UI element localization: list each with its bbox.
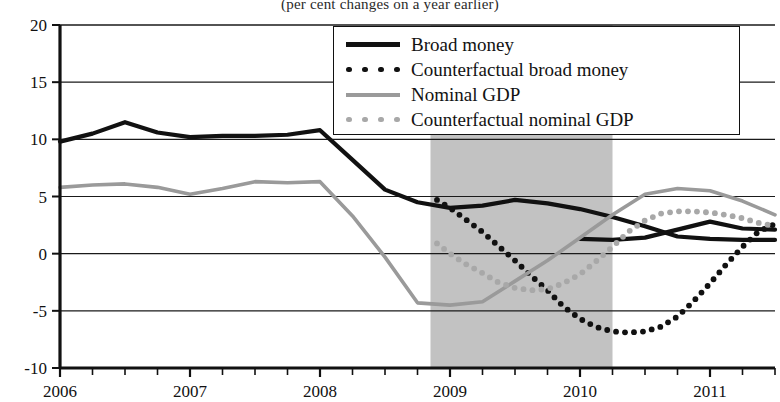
legend-item-counterfactual-broad-money: Counterfactual broad money <box>344 57 731 82</box>
svg-text:10: 10 <box>30 130 47 149</box>
legend-swatch-counterfactual-nominal-gdp <box>344 113 402 127</box>
svg-text:20: 20 <box>30 16 47 35</box>
x-axis-tick-labels: 200620072008200920102011 <box>43 382 727 401</box>
svg-text:5: 5 <box>39 188 48 207</box>
legend-swatch-broad-money <box>344 38 402 52</box>
chart-figure: (per cent changes on a year earlier) 201… <box>0 0 780 402</box>
svg-text:2006: 2006 <box>43 382 77 401</box>
svg-text:15: 15 <box>30 73 47 92</box>
y-axis-tick-labels: 20151050-5-10 <box>24 16 47 378</box>
svg-text:2010: 2010 <box>563 382 597 401</box>
svg-text:2009: 2009 <box>433 382 467 401</box>
legend-label-nominal-gdp: Nominal GDP <box>411 85 520 104</box>
svg-text:0: 0 <box>39 245 48 264</box>
legend-label-broad-money: Broad money <box>411 35 514 54</box>
legend-label-counterfactual-nominal-gdp: Counterfactual nominal GDP <box>411 110 634 129</box>
legend-swatch-counterfactual-broad-money <box>344 63 402 77</box>
svg-text:2007: 2007 <box>173 382 208 401</box>
svg-text:2008: 2008 <box>303 382 337 401</box>
data-series-group <box>60 122 775 335</box>
legend-item-broad-money: Broad money <box>344 32 731 57</box>
svg-text:-5: -5 <box>33 302 47 321</box>
legend-swatch-nominal-gdp <box>344 88 402 102</box>
svg-text:-10: -10 <box>24 359 47 378</box>
svg-text:2011: 2011 <box>693 382 726 401</box>
chart-legend: Broad money Counterfactual broad money N… <box>333 26 740 135</box>
legend-item-nominal-gdp: Nominal GDP <box>344 82 731 107</box>
legend-label-counterfactual-broad-money: Counterfactual broad money <box>411 60 628 79</box>
legend-item-counterfactual-nominal-gdp: Counterfactual nominal GDP <box>344 107 731 132</box>
